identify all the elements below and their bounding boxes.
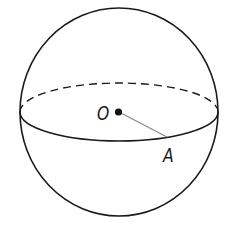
equator-back-dashed bbox=[20, 83, 218, 112]
label-center-o: O bbox=[97, 104, 109, 123]
label-point-a: A bbox=[163, 146, 174, 165]
sphere-figure bbox=[0, 0, 226, 226]
center-point bbox=[115, 108, 122, 115]
radius-segment bbox=[119, 112, 167, 137]
sphere-diagram: O A bbox=[0, 0, 226, 226]
equator-front-solid bbox=[20, 112, 218, 141]
